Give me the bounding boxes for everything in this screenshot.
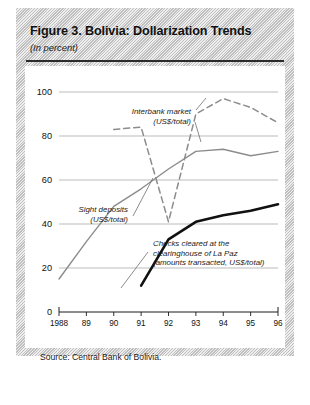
annotation-interbank: Interbank market(US$/total) [132, 107, 192, 126]
title-divider [26, 60, 284, 62]
annotation-checks-cleared: Checks cleared at theclearinghouse of La… [153, 239, 265, 267]
y-tick-label: 80 [42, 131, 52, 141]
source-note: Source: Central Bank of Bolivia. [40, 352, 161, 362]
x-tick-label: 95 [246, 319, 256, 328]
x-tick-label: 90 [109, 319, 119, 328]
dollarization-line-chart: 020406080100 19888990919293949596 Interb… [25, 66, 285, 348]
y-tick-label: 20 [42, 263, 52, 273]
y-tick-label: 100 [37, 87, 52, 97]
leader-sight-deposits [133, 178, 153, 216]
figure-subtitle: (In percent) [30, 42, 78, 53]
x-tick-label: 93 [191, 319, 201, 328]
y-tick-label: 40 [42, 219, 52, 229]
x-tick-label: 96 [273, 319, 283, 328]
figure-title: Figure 3. Bolivia: Dollarization Trends [30, 24, 280, 38]
series-line [114, 99, 278, 222]
figure-root: Figure 3. Bolivia: Dollarization Trends … [0, 0, 310, 405]
annotations-group: Interbank market(US$/total)Sight deposit… [78, 107, 264, 267]
leader-interbank-2 [195, 122, 201, 142]
x-tick-label: 94 [219, 319, 229, 328]
x-tick-label: 89 [82, 319, 92, 328]
x-tick-label: 91 [137, 319, 147, 328]
y-axis-tick-labels: 020406080100 [37, 87, 52, 317]
x-axis-tick-labels: 19888990919293949596 [50, 319, 283, 328]
x-tick-label: 92 [164, 319, 174, 328]
y-tick-label: 0 [47, 307, 52, 317]
leader-interbank [196, 98, 206, 110]
x-tick-label: 1988 [50, 319, 69, 328]
annotation-sight-deposits: Sight deposits(US$/total) [78, 205, 128, 224]
y-tick-label: 60 [42, 175, 52, 185]
x-axis-group [59, 307, 278, 316]
